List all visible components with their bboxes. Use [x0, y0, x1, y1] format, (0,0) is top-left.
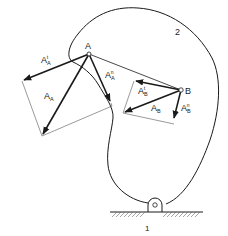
ground-hatching-icon: [112, 212, 200, 217]
label-aa-total: AA: [44, 91, 54, 102]
joint-a-icon: [87, 52, 91, 56]
pivot-o-icon: [153, 203, 157, 207]
label-ab-total: AB: [151, 103, 161, 114]
ground-pivot: [110, 198, 203, 217]
joint-b-icon: [179, 88, 183, 92]
vector-aa-tangential: [24, 54, 89, 80]
label-ab-normal: ABn: [181, 102, 191, 114]
vector-ab-normal: [174, 90, 181, 118]
parallelogram-a: [22, 81, 112, 136]
link-2-outline: [69, 8, 219, 204]
label-point-a: A: [85, 41, 91, 51]
acceleration-diagram: 2 1 A B AAt AAn AA ABt AB ABn: [0, 0, 228, 236]
label-aa-normal: AAn: [105, 69, 115, 81]
label-point-b: B: [185, 86, 191, 96]
label-aa-tangential: AAt: [41, 54, 51, 66]
label-link-2: 2: [175, 27, 180, 37]
label-ground-1: 1: [145, 224, 150, 233]
label-ab-tangential: ABt: [138, 85, 148, 97]
